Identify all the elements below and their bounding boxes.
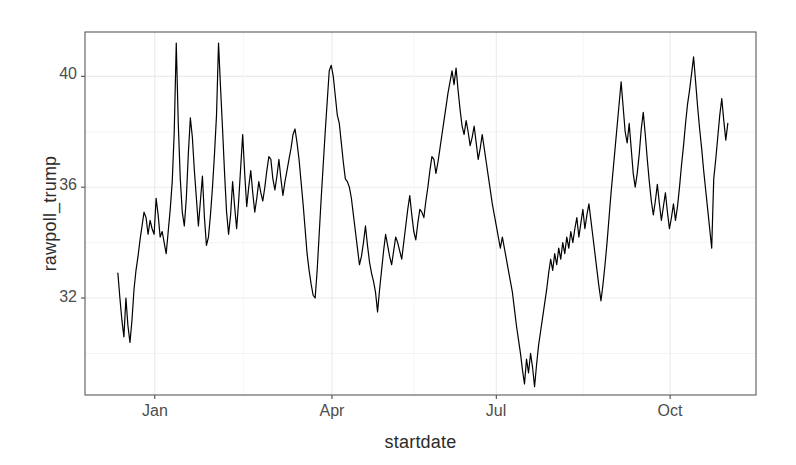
plot-svg <box>0 0 796 465</box>
chart-container: rawpoll_trump 40 36 32 Jan Apr Jul Oct s… <box>0 0 796 465</box>
